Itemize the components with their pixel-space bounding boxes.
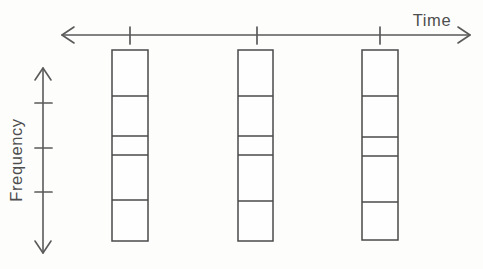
column-3-outline xyxy=(362,50,398,240)
segmented-column-1 xyxy=(112,50,148,241)
time-axis-label: Time xyxy=(413,11,451,29)
time-axis-group: Time xyxy=(62,11,470,44)
diagram-canvas: Time Frequency xyxy=(0,0,483,269)
segmented-column-3 xyxy=(362,50,398,240)
time-frequency-figure: Time Frequency xyxy=(0,0,483,269)
frequency-axis-label: Frequency xyxy=(7,118,25,202)
column-2-outline xyxy=(238,50,273,241)
segmented-column-2 xyxy=(238,50,273,241)
frequency-axis-group: Frequency xyxy=(7,68,52,253)
column-1-outline xyxy=(112,50,148,241)
